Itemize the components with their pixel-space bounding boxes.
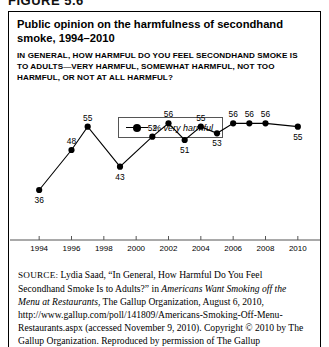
x-axis-tick-label: 2002 xyxy=(160,244,178,253)
data-point-marker xyxy=(182,137,188,143)
data-point-label: 56 xyxy=(164,109,174,119)
data-point-label: 56 xyxy=(229,109,239,119)
x-axis-tick-labels: 199419961998200020022004200620082010 xyxy=(30,244,307,253)
x-axis-tick-label: 1994 xyxy=(30,244,48,253)
data-point-label: 52 xyxy=(148,123,158,133)
chart-question-text: IN GENERAL, HOW HARMFUL DO YOU FEEL SECO… xyxy=(17,50,309,84)
line-chart-svg: 36485543525651555356565655 1994199619982… xyxy=(10,92,320,260)
data-point-marker xyxy=(149,134,155,140)
x-axis-tick-label: 2000 xyxy=(127,244,145,253)
data-point-label: 53 xyxy=(212,138,222,148)
data-point-label: 55 xyxy=(293,132,303,142)
series-line xyxy=(39,123,298,190)
chart-plot-area: 36485543525651555356565655 1994199619982… xyxy=(10,92,320,260)
data-point-marker xyxy=(85,124,91,130)
chart-title: Public opinion on the harmfulness of sec… xyxy=(17,17,307,45)
data-point-label: 51 xyxy=(180,145,190,155)
data-point-label: 55 xyxy=(196,113,206,123)
figure-number-label: FIGURE 5.6 xyxy=(8,0,84,8)
data-point-label: 55 xyxy=(83,113,93,123)
data-point-marker xyxy=(165,120,171,126)
data-point-marker xyxy=(214,130,220,136)
data-point-label: 56 xyxy=(245,109,255,119)
data-point-marker xyxy=(68,147,74,153)
series-very-harmful xyxy=(36,120,301,193)
data-point-marker xyxy=(230,120,236,126)
x-axis xyxy=(10,236,320,240)
data-point-label: 43 xyxy=(115,172,125,182)
x-axis-tick-label: 2010 xyxy=(289,244,307,253)
data-point-marker xyxy=(117,164,123,170)
figure-container: FIGURE 5.6 Public opinion on the harmful… xyxy=(0,0,329,347)
x-axis-tick-label: 2008 xyxy=(257,244,275,253)
data-point-marker xyxy=(198,124,204,130)
x-axis-tick-label: 2006 xyxy=(224,244,242,253)
data-point-marker xyxy=(295,124,301,130)
data-point-label: 56 xyxy=(261,109,271,119)
source-note: SOURCE: Lydia Saad, “In General, How Har… xyxy=(18,268,310,347)
data-point-marker xyxy=(246,120,252,126)
data-point-marker xyxy=(262,120,268,126)
data-point-label: 48 xyxy=(67,136,77,146)
x-axis-tick-label: 1996 xyxy=(63,244,81,253)
data-point-label: 36 xyxy=(35,195,45,205)
source-label: SOURCE: xyxy=(18,270,58,280)
data-point-marker xyxy=(36,187,42,193)
x-axis-tick-label: 1998 xyxy=(95,244,113,253)
x-axis-tick-label: 2004 xyxy=(192,244,210,253)
